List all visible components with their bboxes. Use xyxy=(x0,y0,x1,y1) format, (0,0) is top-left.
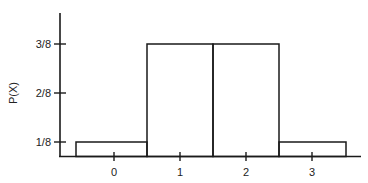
x-tick-label: 3 xyxy=(309,166,315,178)
x-tick-label: 2 xyxy=(243,166,249,178)
bars xyxy=(76,44,346,157)
y-ticks: 3/8 2/8 1/8 xyxy=(36,38,66,148)
probability-histogram: P(X) 3/8 2/8 1/8 0 1 2 3 xyxy=(0,0,368,183)
y-axis-label: P(X) xyxy=(7,82,19,104)
bar-2 xyxy=(213,44,279,157)
x-tick-label: 0 xyxy=(111,166,117,178)
bar-0 xyxy=(76,142,147,157)
y-tick-label: 1/8 xyxy=(36,136,51,148)
y-tick-label: 2/8 xyxy=(36,87,51,99)
y-tick-label: 3/8 xyxy=(36,38,51,50)
x-tick-label: 1 xyxy=(177,166,183,178)
bar-1 xyxy=(147,44,213,157)
